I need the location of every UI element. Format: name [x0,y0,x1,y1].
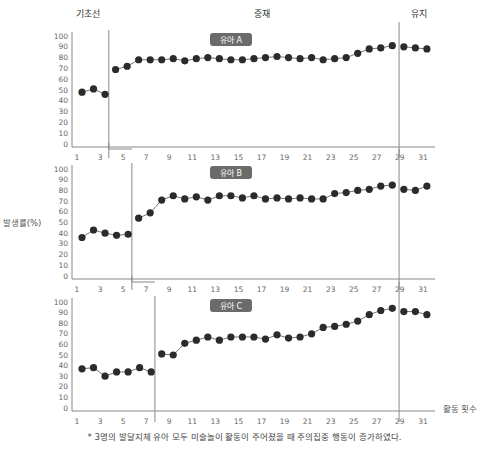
x-tick-label: 19 [280,417,290,426]
data-point [366,186,373,193]
data-point [216,337,223,344]
data-point [285,195,292,202]
data-point [90,85,97,92]
data-point [354,317,361,324]
y-tick-label: 100 [54,165,69,174]
y-tick-label: 40 [58,361,68,370]
x-tick-label: 27 [372,417,382,426]
y-tick-label: 20 [58,250,68,259]
multiple-baseline-chart: 기초선중재유지발생률(%)활동 횟수0102030405060708090100… [0,0,489,458]
data-point [423,311,430,318]
x-tick-label: 11 [188,153,198,162]
data-point [320,56,327,63]
y-tick-label: 30 [58,107,68,116]
data-point [412,187,419,194]
data-point [354,50,361,57]
data-point [216,55,223,62]
data-point [343,54,350,61]
y-tick-label: 80 [58,319,68,328]
x-tick-label: 1 [75,417,80,426]
y-tick-label: 40 [58,229,68,238]
data-point [320,195,327,202]
data-point [296,333,303,340]
y-tick-label: 20 [58,118,68,127]
data-point [101,91,108,98]
data-point [412,308,419,315]
data-point [389,181,396,188]
x-tick-label: 21 [303,417,313,426]
data-point [227,56,234,63]
data-point [204,54,211,61]
data-point [400,308,407,315]
x-tick-label: 5 [121,285,126,294]
data-point [423,45,430,52]
data-point [193,55,200,62]
data-point [181,340,188,347]
data-point [239,56,246,63]
data-point [135,56,142,63]
data-point [296,194,303,201]
data-point [250,55,257,62]
data-point [101,230,108,237]
x-tick-label: 31 [418,285,428,294]
data-point [78,234,85,241]
y-tick-label: 0 [63,272,68,281]
data-point [250,192,257,199]
x-tick-label: 3 [98,417,103,426]
participant-badge-label: 유아 B [220,168,242,178]
x-tick-label: 15 [234,153,244,162]
data-point [148,368,155,375]
chart-footnote: * 3명의 발달지체 유아 모두 미술놀이 활동이 주어졌을 때 주의집중 행동… [0,430,489,442]
data-point [204,333,211,340]
y-tick-label: 80 [58,186,68,195]
x-tick-label: 31 [418,417,428,426]
data-point [227,192,234,199]
x-tick-label: 9 [167,153,172,162]
data-point [239,194,246,201]
data-point [285,334,292,341]
data-point [158,196,165,203]
data-point [343,321,350,328]
data-point [296,55,303,62]
y-tick-label: 60 [58,75,68,84]
x-tick-label: 15 [234,417,244,426]
y-tick-label: 10 [58,393,68,402]
data-point [158,56,165,63]
x-tick-label: 3 [98,285,103,294]
y-tick-label: 50 [58,351,68,360]
data-point [400,186,407,193]
x-tick-label: 19 [280,285,290,294]
data-point [320,324,327,331]
data-point [147,209,154,216]
x-tick-label: 25 [349,417,359,426]
y-tick-label: 60 [58,207,68,216]
y-tick-label: 10 [58,129,68,138]
x-tick-label: 27 [372,285,382,294]
data-point [262,54,269,61]
x-tick-label: 11 [188,285,198,294]
data-point [273,331,280,338]
data-point [136,364,143,371]
y-tick-label: 90 [58,175,68,184]
data-point [113,232,120,239]
data-point [216,192,223,199]
x-tick-label: 19 [280,153,290,162]
data-point [308,195,315,202]
data-point [412,44,419,51]
data-point [366,45,373,52]
data-point [181,57,188,64]
y-tick-label: 20 [58,382,68,391]
data-point [331,323,338,330]
data-point [354,187,361,194]
y-tick-label: 80 [58,53,68,62]
y-tick-label: 10 [58,261,68,270]
data-point [90,364,97,371]
x-tick-label: 7 [144,285,149,294]
data-point [124,63,131,70]
y-tick-label: 50 [58,86,68,95]
data-point [113,368,120,375]
data-point [343,189,350,196]
x-tick-label: 31 [418,153,428,162]
data-point [273,53,280,60]
x-tick-label: 1 [75,153,80,162]
